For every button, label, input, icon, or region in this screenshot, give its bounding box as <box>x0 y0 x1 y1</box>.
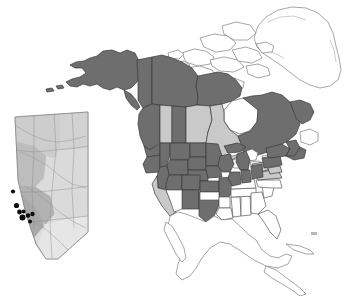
region-oklahoma <box>200 192 219 200</box>
site-dot-1 <box>11 189 15 193</box>
site-dot-3 <box>17 210 22 215</box>
region-ohio <box>251 164 263 179</box>
region-colorado <box>182 175 200 190</box>
alberta-inset <box>6 108 90 262</box>
region-yukon <box>137 57 152 108</box>
north-america-map <box>46 7 341 296</box>
region-kansas <box>200 181 219 192</box>
region-florida <box>258 210 281 239</box>
region-central-america <box>264 266 306 296</box>
alaska-aleutian-2 <box>46 88 54 92</box>
region-cuba <box>286 244 314 254</box>
site-dot-7 <box>30 212 34 216</box>
region-utah <box>166 175 182 190</box>
alberta-band-north-east <box>60 108 90 150</box>
region-indiana <box>241 170 251 183</box>
region-saskatchewan <box>172 106 186 143</box>
site-dot-4 <box>22 210 26 214</box>
region-british-columbia <box>138 104 160 150</box>
region-oregon <box>143 155 160 173</box>
region-mississippi <box>231 197 241 217</box>
site-dot-5 <box>20 215 26 221</box>
region-south-dakota <box>188 157 206 170</box>
region-wyoming <box>167 160 188 175</box>
region-newfoundland <box>300 129 318 145</box>
region-alaska <box>66 50 140 90</box>
region-alabama <box>241 196 251 216</box>
site-dot-6 <box>26 213 31 218</box>
region-alberta <box>160 105 172 143</box>
alaska-panhandle <box>124 90 140 110</box>
region-arkansas <box>219 197 230 208</box>
region-montana <box>170 143 190 160</box>
region-north-carolina <box>256 180 282 188</box>
alaska-aleutian-1 <box>56 85 64 89</box>
map-speck-artifact <box>311 232 317 235</box>
map-canvas <box>0 0 357 296</box>
distribution-map-figure <box>0 0 357 296</box>
region-new-mexico <box>182 190 199 209</box>
region-north-dakota <box>190 143 206 157</box>
site-dot-2 <box>14 203 19 208</box>
site-dot-8 <box>28 220 32 224</box>
